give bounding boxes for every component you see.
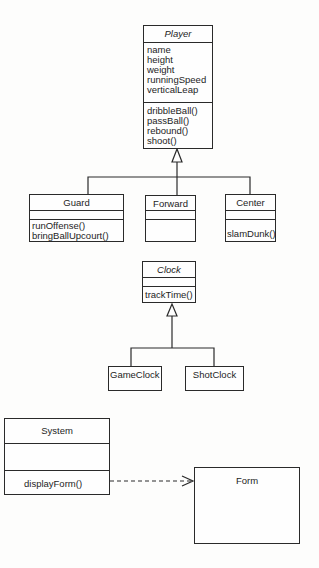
class-clock[interactable]: Clock trackTime() bbox=[142, 261, 196, 303]
generalization-arrow-icon bbox=[167, 304, 177, 316]
class-name: Clock bbox=[143, 262, 195, 278]
methods-compartment: runOffense() bringBallUpcourt() bbox=[30, 220, 123, 242]
methods-compartment: dribbleBall() passBall() rebound() shoot… bbox=[144, 103, 212, 147]
attribute: verticalLeap bbox=[147, 85, 212, 95]
clock-generalization bbox=[131, 304, 214, 366]
class-name: Forward bbox=[146, 196, 195, 211]
method: bringBallUpcourt() bbox=[32, 231, 123, 241]
attributes-compartment bbox=[226, 211, 275, 220]
methods-compartment: slamDunk() bbox=[226, 220, 275, 240]
attributes-compartment bbox=[5, 444, 109, 471]
class-name: System bbox=[5, 419, 109, 444]
class-guard[interactable]: Guard runOffense() bringBallUpcourt() bbox=[29, 194, 124, 242]
class-name: GameClock bbox=[109, 367, 161, 383]
class-form[interactable]: Form bbox=[194, 467, 300, 544]
attributes-compartment: name height weight runningSpeed vertical… bbox=[144, 43, 212, 103]
class-name: Form bbox=[195, 468, 299, 494]
class-name: ShotClock bbox=[186, 367, 243, 383]
method: trackTime() bbox=[145, 290, 195, 300]
attributes-compartment bbox=[146, 211, 195, 220]
method: shoot() bbox=[147, 136, 212, 146]
class-gameclock[interactable]: GameClock bbox=[108, 366, 162, 391]
class-name: Guard bbox=[30, 195, 123, 211]
class-name: Center bbox=[226, 195, 275, 211]
methods-compartment: displayForm() bbox=[5, 471, 109, 490]
methods-compartment: trackTime() bbox=[143, 287, 195, 301]
class-shotclock[interactable]: ShotClock bbox=[185, 366, 244, 391]
method: displayForm() bbox=[24, 479, 109, 489]
generalization-arrow-icon bbox=[172, 149, 182, 162]
class-center[interactable]: Center slamDunk() bbox=[225, 194, 276, 242]
class-system[interactable]: System displayForm() bbox=[4, 418, 110, 495]
class-forward[interactable]: Forward bbox=[145, 195, 196, 242]
attributes-compartment bbox=[30, 211, 123, 220]
class-name: Player bbox=[144, 26, 212, 43]
method: slamDunk() bbox=[227, 229, 275, 239]
attributes-compartment bbox=[143, 278, 195, 287]
system-form-dependency bbox=[110, 476, 193, 486]
class-player[interactable]: Player name height weight runningSpeed v… bbox=[143, 25, 213, 149]
player-generalization bbox=[88, 149, 250, 195]
